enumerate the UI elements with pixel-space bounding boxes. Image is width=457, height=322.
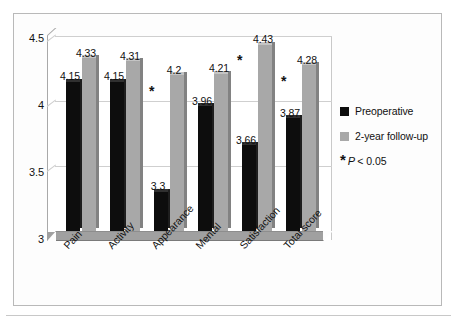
legend-label-preoperative: Preoperative [355,105,413,117]
bar-total-score-preoperative[interactable] [286,118,300,231]
value-label-satisfaction-followup: 4.43 [248,33,278,45]
significance-asterisk-satisfaction: * [237,55,242,65]
value-label-total-score-preoperative: 3.87 [275,107,305,119]
legend-p-value: < 0.05 [357,155,387,167]
value-label-pain-preoperative: 4.15 [55,70,85,82]
value-label-appearance-preoperative: 3.3 [144,180,172,192]
legend-significance-note: * P < 0.05 [340,155,445,167]
value-label-activity-preoperative: 4.15 [99,70,129,82]
legend-item-preoperative: Preoperative [340,105,445,117]
legend-asterisk-icon: * [340,155,346,165]
legend-label-followup: 2-year follow-up [355,130,428,142]
y-tick-4.5: 4.5 [4,32,44,44]
legend-p-symbol: P [348,155,355,167]
chart-legend: Preoperative 2-year follow-up * P < 0.05 [340,105,445,167]
y-tick-3: 3 [4,233,44,245]
value-label-mental-followup: 4.21 [204,62,234,74]
value-label-activity-followup: 4.31 [115,50,145,62]
bar-group-activity [110,36,150,231]
value-label-total-score-followup: 4.28 [292,54,322,66]
value-label-mental-preoperative: 3.96 [187,95,217,107]
y-tick-4: 4 [4,99,44,111]
significance-asterisk-total-score: * [281,76,286,86]
bottom-rule [6,315,451,316]
y-tick-3.5: 3.5 [4,166,44,178]
bar-mental-preoperative[interactable] [198,106,212,231]
bar-activity-followup[interactable] [126,61,140,231]
legend-item-followup: 2-year follow-up [340,130,445,142]
bar-satisfaction-preoperative[interactable] [242,145,256,231]
x-axis-labels: Pain Activity Appearance Mental Satisfac… [47,243,347,305]
legend-swatch-preoperative [340,107,349,116]
value-label-appearance-followup: 4.2 [160,64,188,76]
figure: 4.5 4 3.5 3 [0,0,457,322]
legend-swatch-followup [340,132,349,141]
bar-group-pain [66,36,106,231]
value-label-pain-followup: 4.33 [71,47,101,59]
significance-asterisk-appearance: * [149,86,154,96]
value-label-satisfaction-preoperative: 3.66 [231,134,261,146]
y-axis: 4.5 4 3.5 3 [0,0,44,270]
bar-pain-followup[interactable] [82,58,96,231]
bar-pain-preoperative[interactable] [66,82,80,232]
bar-activity-preoperative[interactable] [110,82,124,232]
